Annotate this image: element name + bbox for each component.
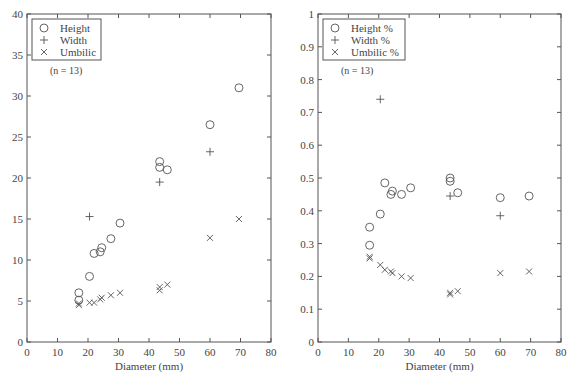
x-tick-label: 50 [174,346,186,358]
x-marker [164,282,170,288]
sample-size-note: (n = 13) [50,65,82,77]
x-marker [91,300,97,306]
x-tick-label: 60 [205,346,217,358]
x-marker [157,284,163,290]
x-tick-label: 30 [404,346,416,358]
y-tick-label: 0.3 [300,238,314,250]
x-tick-label: 20 [83,346,95,358]
x-tick-label: 20 [373,346,385,358]
y-tick-label: 30 [12,90,24,102]
y-tick-label: 15 [12,213,24,225]
plus-marker [376,95,384,103]
y-tick-label: 0.9 [300,41,314,53]
y-tick-label: 0.4 [300,205,314,217]
legend-label: Width % [351,34,390,46]
x-marker [408,275,414,281]
circle-marker [163,166,171,174]
circle-marker [107,235,115,243]
legend-label: Width [60,34,88,46]
legend: HeightWidthUmbilic [32,19,101,60]
y-tick-label: 1 [309,8,315,20]
y-tick-label: 25 [12,131,24,143]
x-tick-label: 80 [266,346,278,358]
y-tick-label: 0.7 [300,106,314,118]
plus-marker [446,192,454,200]
y-tick-label: 20 [12,172,24,184]
x-marker [497,270,503,276]
x-marker [207,235,213,241]
circle-marker [407,184,415,192]
y-tick-label: 10 [12,254,24,266]
plus-marker [496,212,504,220]
x-marker [455,288,461,294]
circle-marker [454,189,462,197]
circle-marker [235,84,243,92]
x-tick-label: 70 [235,346,247,358]
x-tick-label: 40 [434,346,446,358]
circle-marker [156,163,164,171]
circle-marker [496,194,504,202]
x-marker [389,270,395,276]
legend-label: Height % [351,22,393,34]
legend-label: Height [60,22,90,34]
y-tick-label: 35 [12,49,24,61]
x-tick-label: 0 [315,346,321,358]
circle-marker [376,210,384,218]
circle-marker [206,121,214,129]
chart-panel-2: 0102030405060708000.10.20.30.40.50.60.70… [300,8,567,373]
x-tick-label: 30 [113,346,125,358]
series-width [376,95,504,219]
legend-label: Umbilic % [351,46,399,58]
x-marker [399,273,405,279]
y-tick-label: 0 [309,336,315,348]
plus-marker [206,148,214,156]
plot-frame [27,14,271,342]
x-axis-label: Diameter (mm) [405,360,473,373]
y-tick-label: 0 [18,336,24,348]
x-marker [236,216,242,222]
plot-frame [318,14,561,342]
x-tick-label: 10 [52,346,64,358]
series-umbilic [367,254,532,298]
series-width [86,148,214,221]
series-height [366,174,533,249]
x-marker [526,268,532,274]
y-tick-label: 0.6 [300,139,314,151]
x-marker [157,287,163,293]
x-marker [382,267,388,273]
y-tick-label: 40 [12,8,24,20]
x-tick-label: 60 [495,346,507,358]
x-tick-label: 50 [464,346,476,358]
circle-marker [381,179,389,187]
sample-size-note: (n = 13) [341,65,373,77]
circle-marker [525,192,533,200]
y-tick-label: 0.8 [300,74,314,86]
legend-label: Umbilic [60,46,96,58]
x-marker [117,290,123,296]
x-axis-label: Diameter (mm) [115,360,183,373]
x-tick-label: 10 [343,346,355,358]
series-height [75,84,243,304]
y-tick-label: 0.2 [300,270,314,282]
x-tick-label: 0 [24,346,30,358]
x-tick-label: 70 [525,346,537,358]
circle-marker [116,219,124,227]
plus-marker [156,178,164,186]
y-tick-label: 5 [18,295,24,307]
circle-marker [366,241,374,249]
y-tick-label: 0.1 [300,303,314,315]
scatter-charts: 010203040506070800510152025303540Diamete… [0,0,573,381]
x-tick-label: 40 [144,346,156,358]
chart-panel-1: 010203040506070800510152025303540Diamete… [12,8,277,373]
plus-marker [86,213,94,221]
series-umbilic [76,216,242,308]
circle-marker [366,223,374,231]
legend: Height %Width %Umbilic % [323,19,405,60]
circle-marker [75,289,83,297]
circle-marker [86,272,94,280]
x-marker [108,292,114,298]
x-marker [99,295,105,301]
x-tick-label: 80 [556,346,568,358]
y-tick-label: 0.5 [300,172,314,184]
circle-marker [398,190,406,198]
